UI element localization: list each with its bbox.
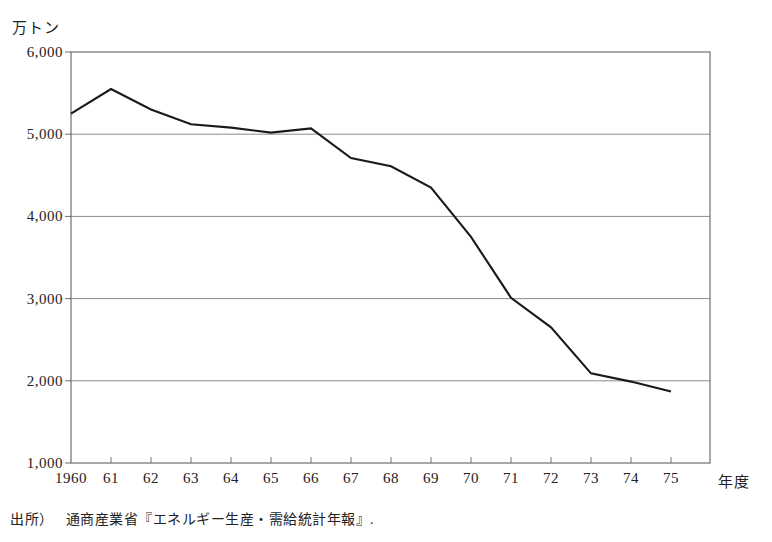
x-axis-tick-label: 74	[623, 470, 639, 487]
x-axis-tick-label: 66	[303, 470, 319, 487]
chart-figure: 万トン 6,0005,0004,0003,0002,0001,000 19606…	[0, 0, 772, 542]
x-axis-tick-label: 75	[663, 470, 679, 487]
x-axis-ticks	[111, 457, 671, 463]
x-axis-tick-label: 73	[583, 470, 599, 487]
source-note: 出所）通商産業省『エネルギー生産・需給統計年報』.	[10, 508, 374, 528]
x-axis-tick-label: 71	[503, 470, 519, 487]
line-chart-plot	[0, 0, 772, 542]
x-axis-tick-label: 70	[463, 470, 479, 487]
x-axis-tick-label: 63	[183, 470, 199, 487]
source-label: 出所）	[10, 512, 54, 527]
x-axis-tick-label: 67	[343, 470, 359, 487]
x-axis-tick-label: 69	[423, 470, 439, 487]
x-axis-tick-label: 68	[383, 470, 399, 487]
x-axis-tick-label: 72	[543, 470, 559, 487]
x-axis-tick-label: 1960	[55, 470, 87, 487]
x-axis-tick-label: 62	[143, 470, 159, 487]
x-axis-tick-label: 64	[223, 470, 239, 487]
x-axis-tick-label: 65	[263, 470, 279, 487]
x-axis-title: 年度	[718, 470, 750, 491]
source-text: 通商産業省『エネルギー生産・需給統計年報』.	[66, 512, 375, 527]
x-axis-tick-label: 61	[103, 470, 119, 487]
plot-frame	[71, 52, 710, 463]
